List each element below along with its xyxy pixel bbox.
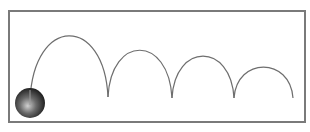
frame-border — [9, 11, 305, 122]
trajectory-arc-4 — [234, 67, 293, 98]
trajectory-arc-2 — [108, 50, 172, 98]
trajectory-arc-1 — [30, 36, 108, 100]
trajectory-arcs — [30, 36, 293, 100]
diagram-canvas — [0, 0, 310, 132]
bouncing-ball-diagram — [0, 0, 310, 132]
trajectory-arc-3 — [172, 56, 234, 98]
